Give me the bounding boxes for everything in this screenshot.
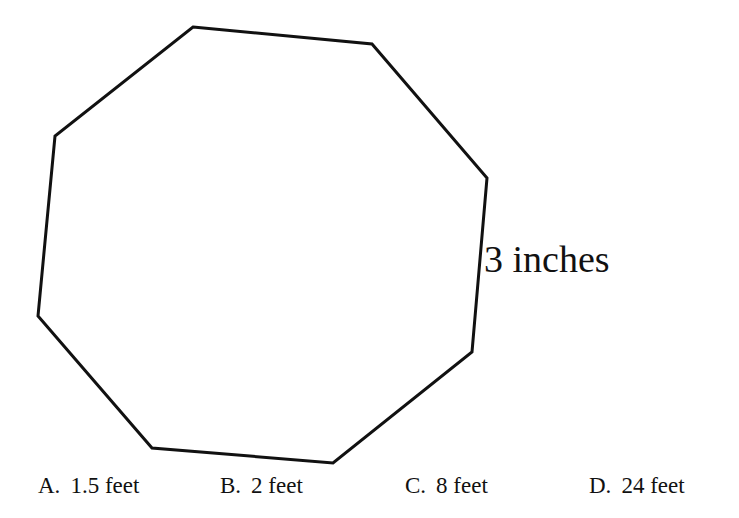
choice-b-text: 2 feet	[251, 473, 303, 498]
choice-d-text: 24 feet	[621, 473, 684, 498]
choice-d-letter: D.	[589, 473, 611, 498]
side-length-label: 3 inches	[484, 240, 610, 278]
choice-a-letter: A.	[38, 473, 60, 498]
choice-a[interactable]: A.1.5 feet	[38, 474, 139, 497]
choice-c[interactable]: C.8 feet	[405, 474, 488, 497]
choice-a-text: 1.5 feet	[70, 473, 139, 498]
choice-b[interactable]: B.2 feet	[220, 474, 303, 497]
octagon-outline	[38, 27, 487, 463]
choice-b-letter: B.	[220, 473, 241, 498]
choice-c-letter: C.	[405, 473, 426, 498]
choice-c-text: 8 feet	[436, 473, 488, 498]
octagon-figure	[0, 0, 739, 518]
choice-d[interactable]: D.24 feet	[589, 474, 685, 497]
answer-choices: A.1.5 feet B.2 feet C.8 feet D.24 feet	[0, 474, 739, 504]
